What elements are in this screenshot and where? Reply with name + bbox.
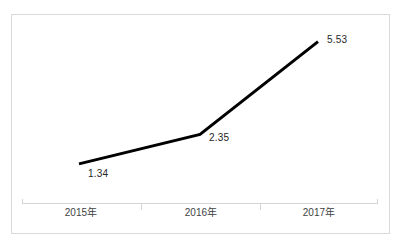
data-label-2015: 1.34: [88, 168, 108, 179]
data-label-2016: 2.35: [209, 132, 229, 143]
category-label-2017: 2017年: [289, 207, 349, 219]
category-label-2016: 2016年: [171, 207, 231, 219]
category-label-2015: 2015年: [51, 207, 111, 219]
series-line-0: [79, 42, 318, 164]
data-label-2017: 5.53: [327, 34, 347, 45]
